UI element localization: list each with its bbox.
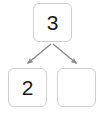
tree-node-root-value: 3: [47, 12, 59, 33]
binary-tree-diagram: 3 2: [0, 0, 104, 113]
edge-root-to-left-child: [28, 44, 52, 64]
tree-node-left-child-value: 2: [22, 77, 34, 98]
tree-node-root[interactable]: 3: [33, 3, 72, 42]
tree-node-right-child[interactable]: [57, 68, 96, 107]
tree-node-left-child[interactable]: 2: [8, 68, 47, 107]
edge-root-to-right-child: [53, 44, 77, 64]
